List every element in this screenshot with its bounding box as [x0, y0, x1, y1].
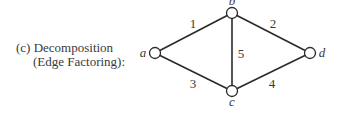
node-d	[305, 48, 316, 59]
graph-diagram: 12345 abcd	[0, 0, 337, 113]
edge-label: 5	[238, 46, 245, 61]
node-a	[150, 48, 161, 59]
node-label-a: a	[140, 45, 147, 60]
edge-labels: 12345	[190, 16, 277, 91]
edge-label: 1	[190, 16, 197, 31]
node-label-c: c	[229, 94, 235, 109]
edges	[155, 13, 310, 91]
edge-label: 2	[270, 16, 277, 31]
node-b	[227, 8, 238, 19]
node-label-b: b	[229, 0, 236, 8]
edge-label: 3	[190, 76, 197, 91]
edge-label: 4	[269, 76, 276, 91]
node-label-d: d	[319, 45, 326, 60]
